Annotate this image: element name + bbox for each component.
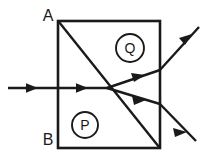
refracted-upper-arrow-1-icon: [131, 73, 145, 82]
diagram-canvas: A B P Q: [0, 0, 210, 164]
incident-ray-arrow-2-icon: [76, 83, 88, 93]
diagonal-interface-line: [59, 22, 159, 147]
incident-ray-arrow-1-icon: [26, 83, 38, 93]
refracted-upper-outside-line: [159, 27, 199, 71]
ray-optics-figure: A B P Q: [0, 0, 210, 164]
corner-label-b: B: [43, 131, 54, 148]
region-label-q: Q: [125, 40, 136, 56]
region-label-p: P: [80, 117, 89, 133]
corner-label-a: A: [43, 7, 54, 24]
refracted-upper-arrow-2-icon: [179, 34, 192, 45]
